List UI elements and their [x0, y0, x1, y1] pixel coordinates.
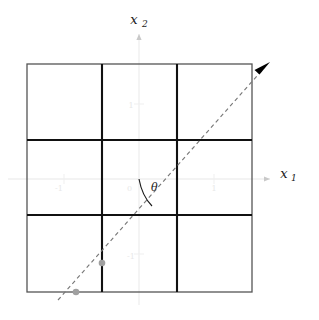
figure-canvas: -1 1 1 -1 0 θ: [0, 0, 319, 320]
dashed-direction-ray: [58, 68, 264, 300]
tick-label-origin: 0: [127, 184, 132, 193]
point-lower: [73, 289, 80, 296]
theta-angle-group: θ: [139, 179, 158, 206]
theta-label: θ: [151, 181, 158, 194]
point-upper: [99, 260, 106, 267]
x1-axis-arrow-icon: [264, 176, 270, 181]
tick-labels-group: -1 1 1 -1 0: [55, 101, 216, 261]
tick-label-x1-pos1: 1: [211, 184, 216, 193]
x2-axis-label-subscript: 2: [141, 19, 148, 29]
x1-axis-label-subscript: 1: [291, 173, 297, 183]
dashed-ray-group: [58, 62, 270, 300]
diagram-svg: -1 1 1 -1 0 θ: [0, 0, 319, 320]
x1-axis-label: x: [280, 166, 288, 181]
axis-name-labels: x 2 x 1: [130, 12, 296, 183]
tick-label-x2-neg1: -1: [127, 252, 135, 261]
axes-group: [8, 34, 270, 305]
ray-arrowhead-icon: [255, 62, 271, 75]
x2-axis-label: x: [130, 12, 138, 27]
tick-label-x1-neg1: -1: [55, 184, 63, 193]
tick-label-x2-pos1: 1: [128, 101, 133, 110]
x2-axis-arrow-icon: [136, 34, 141, 40]
